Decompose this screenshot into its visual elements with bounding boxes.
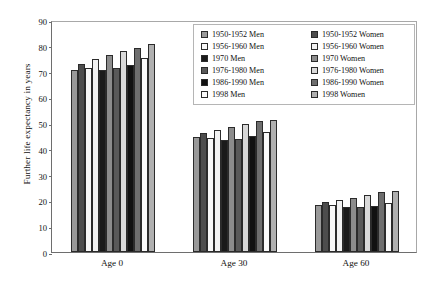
legend-label: 1976-1980 Women — [322, 65, 384, 76]
legend-swatch-icon — [201, 55, 208, 62]
legend-item: 1970 Men — [201, 53, 311, 64]
bar — [148, 44, 155, 252]
legend-swatch-icon — [311, 67, 318, 74]
legend-label: 1998 Men — [212, 89, 245, 100]
y-axis-tick-mark — [49, 254, 52, 255]
legend-item: 1998 Women — [311, 89, 409, 100]
legend-swatch-icon — [201, 31, 208, 38]
bar-group — [52, 22, 174, 252]
legend-swatch-icon — [201, 79, 208, 86]
legend-grid: 1950-1952 Men1950-1952 Women1956-1960 Me… — [201, 29, 409, 100]
legend-item: 1976-1980 Women — [311, 65, 409, 76]
x-axis-label: Age 0 — [51, 258, 173, 268]
x-axis-label: Age 30 — [173, 258, 295, 268]
legend-label: 1950-1952 Men — [212, 29, 264, 40]
bar — [392, 191, 399, 252]
legend-label: 1986-1990 Women — [322, 77, 384, 88]
legend-label: 1976-1980 Men — [212, 65, 264, 76]
bar — [270, 120, 277, 252]
legend-item: 1956-1960 Women — [311, 41, 409, 52]
legend-label: 1998 Women — [322, 89, 365, 100]
legend-label: 1956-1960 Women — [322, 41, 384, 52]
legend-item: 1976-1980 Men — [201, 65, 311, 76]
legend-swatch-icon — [201, 91, 208, 98]
legend-item: 1950-1952 Women — [311, 29, 409, 40]
y-axis-title: Further life expectancy in years — [22, 14, 32, 234]
legend-item: 1956-1960 Men — [201, 41, 311, 52]
legend-label: 1956-1960 Men — [212, 41, 264, 52]
legend-label: 1970 Men — [212, 53, 245, 64]
legend-item: 1950-1952 Men — [201, 29, 311, 40]
legend-swatch-icon — [201, 67, 208, 74]
legend-swatch-icon — [311, 43, 318, 50]
legend-label: 1970 Women — [322, 53, 365, 64]
legend-item: 1970 Women — [311, 53, 409, 64]
legend-label: 1986-1990 Men — [212, 77, 264, 88]
x-axis-label: Age 60 — [295, 258, 417, 268]
legend-swatch-icon — [311, 55, 318, 62]
chart-figure: Further life expectancy in years 0102030… — [0, 0, 439, 288]
legend-swatch-icon — [311, 91, 318, 98]
legend-swatch-icon — [311, 79, 318, 86]
chart-legend: 1950-1952 Men1950-1952 Women1956-1960 Me… — [193, 24, 415, 105]
legend-item: 1986-1990 Women — [311, 77, 409, 88]
legend-swatch-icon — [311, 31, 318, 38]
legend-label: 1950-1952 Women — [322, 29, 384, 40]
legend-item: 1998 Men — [201, 89, 311, 100]
legend-item: 1986-1990 Men — [201, 77, 311, 88]
legend-swatch-icon — [201, 43, 208, 50]
